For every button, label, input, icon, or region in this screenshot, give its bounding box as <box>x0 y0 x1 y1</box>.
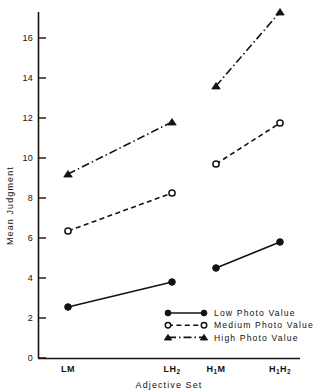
series-segment <box>68 122 172 174</box>
axes-group <box>38 12 300 359</box>
data-point-marker <box>65 304 72 311</box>
data-point-marker <box>201 310 207 316</box>
series-segment <box>216 12 280 86</box>
y-tick-label: 6 <box>28 233 33 243</box>
x-category-label-group: LMLH2H1MH1H2 <box>61 364 291 375</box>
y-tick-label: 8 <box>28 193 33 203</box>
data-point-marker <box>213 265 220 272</box>
y-tick-label: 14 <box>23 73 33 83</box>
x-category-label: H1M <box>207 364 226 375</box>
y-axis-title: Mean Judgment <box>5 166 15 245</box>
chart-legend: Low Photo ValueMedium Photo ValueHigh Ph… <box>164 308 314 342</box>
series-low-photo-value <box>65 239 284 311</box>
legend-label: High Photo Value <box>214 333 299 343</box>
y-tick-label: 16 <box>23 33 33 43</box>
x-axis-title: Adjective Set <box>136 380 203 390</box>
series-segment <box>68 282 172 307</box>
data-point-marker <box>201 322 206 327</box>
legend-item-low-photo-value: Low Photo Value <box>165 308 295 318</box>
x-category-label: LM <box>61 364 75 374</box>
legend-item-high-photo-value: High Photo Value <box>164 333 298 343</box>
data-point-marker <box>64 171 72 177</box>
series-segment <box>216 123 280 164</box>
y-tick-label: 4 <box>28 273 33 283</box>
x-category-label: LH2 <box>164 364 181 375</box>
data-point-marker <box>277 239 284 246</box>
data-point-marker <box>277 120 283 126</box>
y-tick-label: 10 <box>23 153 33 163</box>
data-point-marker <box>165 310 171 316</box>
data-point-marker <box>65 228 71 234</box>
chart-figure: 0246810121416 Mean Judgment LMLH2H1MH1H2… <box>0 0 314 391</box>
x-category-label: H1H2 <box>269 364 291 375</box>
series-medium-photo-value <box>65 120 283 234</box>
y-tick-label: 0 <box>28 353 33 363</box>
series-segment <box>68 193 172 231</box>
legend-label: Medium Photo Value <box>214 320 314 330</box>
data-point-marker <box>213 161 219 167</box>
series-high-photo-value <box>64 9 284 177</box>
data-point-marker <box>169 190 175 196</box>
data-series-group <box>64 9 284 311</box>
line-chart-canvas: 0246810121416 Mean Judgment LMLH2H1MH1H2… <box>0 0 314 391</box>
y-tick-group: 0246810121416 <box>23 33 46 363</box>
y-tick-label: 2 <box>28 313 33 323</box>
legend-label: Low Photo Value <box>214 308 296 318</box>
y-tick-label: 12 <box>23 113 33 123</box>
data-point-marker <box>168 119 176 125</box>
data-point-marker <box>169 279 176 286</box>
data-point-marker <box>165 322 170 327</box>
data-point-marker <box>276 9 284 15</box>
legend-item-medium-photo-value: Medium Photo Value <box>165 320 314 330</box>
series-segment <box>216 242 280 268</box>
